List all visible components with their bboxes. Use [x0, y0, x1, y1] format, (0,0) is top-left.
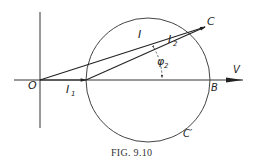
label-i2: I	[168, 33, 171, 46]
label-i2-sub: 2	[173, 40, 178, 48]
phasor-diagram: O C B C′ V I I 1 I 2 φ 2 FIG. 9.10	[0, 0, 254, 165]
label-phi2-sub: 2	[164, 62, 169, 70]
label-i1: I	[66, 83, 69, 96]
label-c: C	[207, 15, 215, 28]
label-c-prime: C′	[183, 128, 193, 139]
label-origin: O	[28, 79, 37, 92]
label-i1-sub: 1	[71, 90, 75, 98]
figure-caption: FIG. 9.10	[111, 147, 152, 158]
label-i: I	[138, 28, 141, 41]
vector-i	[40, 27, 205, 80]
vector-i2	[86, 27, 205, 80]
label-v: V	[233, 64, 241, 75]
voltage-arrowhead-icon	[226, 78, 243, 83]
label-b: B	[211, 82, 218, 93]
